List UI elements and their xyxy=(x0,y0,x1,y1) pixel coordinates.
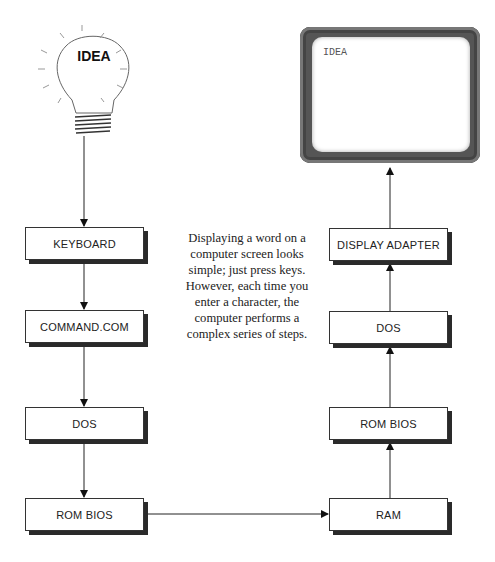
caption-line: However, each time you xyxy=(166,278,328,294)
caption-line: complex series of steps. xyxy=(166,326,328,342)
monitor-screen: IDEA xyxy=(312,37,470,152)
caption-line: enter a character, the xyxy=(166,294,328,310)
monitor-icon: IDEA xyxy=(300,27,480,163)
caption-line: Displaying a word on a xyxy=(166,230,328,246)
lightbulb-icon xyxy=(38,25,129,133)
monitor-screen-text: IDEA xyxy=(323,47,347,58)
box-keyboard: KEYBOARD xyxy=(25,227,144,260)
box-display-adapter: DISPLAY ADAPTER xyxy=(329,228,448,261)
idea-label: IDEA xyxy=(63,48,125,64)
box-dos-right: DOS xyxy=(329,311,448,344)
box-dos-left: DOS xyxy=(25,407,144,440)
box-rom-bios-left: ROM BIOS xyxy=(25,498,144,531)
box-command-com: COMMAND.COM xyxy=(25,310,144,343)
caption-line: simple; just press keys. xyxy=(166,262,328,278)
box-rom-bios-right: ROM BIOS xyxy=(329,407,448,440)
caption-text: Displaying a word on a computer screen l… xyxy=(166,230,328,342)
caption-line: computer performs a xyxy=(166,310,328,326)
box-ram: RAM xyxy=(329,498,448,531)
caption-line: computer screen looks xyxy=(166,246,328,262)
